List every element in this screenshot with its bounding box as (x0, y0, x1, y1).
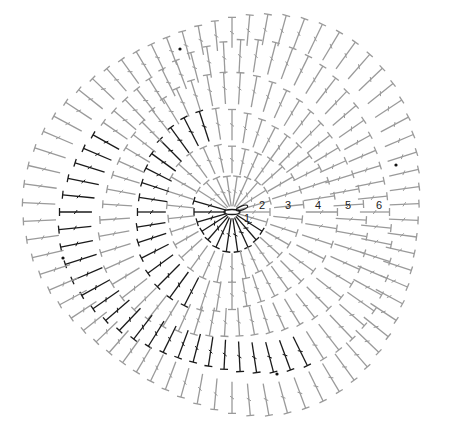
stitch-dc (325, 171, 354, 183)
stitch-dc (124, 144, 150, 162)
stitch-dc (203, 74, 213, 106)
stitch-dc (344, 132, 372, 150)
stitch-dc (205, 308, 214, 337)
stitch-dc (166, 272, 188, 300)
stitch-dc (266, 342, 278, 373)
stitch-dc (187, 79, 200, 110)
stitch-dc (149, 107, 170, 133)
stitch-dc (246, 384, 254, 416)
stitch-dc (149, 150, 175, 171)
stitch-dc (137, 233, 166, 246)
magic-ring-icon (224, 210, 240, 215)
stitch-dc (160, 326, 177, 354)
stitch-dc (219, 42, 227, 74)
stitch-dc (293, 109, 314, 134)
stitch-dc (177, 368, 189, 398)
stitch-dc (356, 330, 382, 355)
stitch-dc (119, 339, 139, 365)
stitch-dc (204, 337, 212, 367)
stitch-dc (335, 354, 357, 383)
round-label: 6 (376, 199, 382, 211)
stitch-dc (271, 266, 291, 292)
stitch-dc (348, 52, 373, 79)
stitch-dc (284, 98, 303, 125)
stitch-dc (306, 208, 338, 216)
stitch-dc (299, 177, 329, 190)
stitch-dc (301, 120, 324, 143)
stitch-dc (306, 331, 327, 361)
stitch-dc (316, 76, 339, 104)
stitch-dc (389, 166, 419, 177)
stitch-dc (196, 281, 209, 312)
stitch-dc (320, 157, 348, 172)
stitch-dc (48, 278, 78, 294)
stitch-dc (63, 99, 91, 120)
stitch-dc (168, 215, 195, 223)
stitch-dc (33, 144, 65, 158)
stitch-dc (220, 340, 228, 370)
stitch-dc (195, 110, 209, 141)
stitch-dc (280, 340, 295, 371)
stitch-dc (111, 171, 139, 183)
stitch-rounds (22, 14, 419, 417)
stitch-dc (314, 144, 340, 162)
stitch-dc (262, 271, 278, 298)
stitch-dc (100, 216, 130, 224)
stitch-dc (118, 57, 139, 83)
stitch-dc (228, 110, 236, 141)
stitch-dc (91, 291, 119, 312)
round-label: 1 (244, 212, 250, 224)
stitch-dc (316, 278, 343, 301)
stitch-dc (67, 174, 99, 184)
stitch-dc (228, 280, 236, 309)
stitch-dc (145, 295, 167, 322)
start-marker-dot (394, 163, 397, 166)
stitch-dc (323, 30, 343, 60)
stitch-dc (213, 253, 223, 283)
stitch-dc (349, 147, 378, 162)
stitch-dc (286, 152, 312, 172)
stitch-dc (139, 193, 167, 201)
stitch-dc (42, 128, 73, 144)
stitch-dc (139, 119, 162, 142)
stitch-dc (306, 64, 326, 94)
stitch-dc (323, 363, 343, 393)
stitch-dc (212, 108, 221, 140)
stitch-dc (273, 215, 302, 223)
stitch-dc (210, 379, 218, 410)
stitch-dc (381, 114, 411, 132)
stitch-dc (60, 241, 93, 252)
stitch-dc (141, 179, 169, 192)
stitch-dc (80, 280, 110, 299)
stitch-dc (285, 299, 304, 327)
stitch-dc (110, 268, 139, 288)
stitch-dc (296, 245, 325, 263)
stitch-dc (294, 378, 309, 410)
stitch-dc (228, 146, 236, 173)
stitch-dc (71, 268, 103, 285)
stitch-dc (355, 177, 384, 187)
stitch-dc (353, 279, 383, 298)
stitch-dc (359, 65, 385, 90)
stitch-dc (268, 42, 280, 75)
stitch-dc (331, 256, 362, 273)
stitch-dc (212, 281, 221, 311)
stitch-dc (252, 342, 261, 373)
start-marker-dot (275, 372, 278, 375)
stitch-dc (167, 125, 189, 153)
stitch-dc (389, 216, 418, 224)
stitch-dc (368, 80, 396, 103)
stitch-dc (235, 308, 243, 336)
stitch-dc (347, 292, 376, 314)
stitch-dc (91, 131, 119, 149)
stitch-dc (181, 277, 199, 307)
stitch-dc (307, 287, 332, 312)
stitch-dc (278, 14, 290, 46)
stitch-dc (279, 382, 292, 415)
stitch-dc (237, 39, 245, 72)
stitch-dc (137, 208, 165, 216)
stitch-dc (293, 337, 311, 368)
stitch-dc (106, 185, 135, 194)
stitch-dc (274, 89, 290, 118)
stitch-dc (60, 208, 92, 216)
